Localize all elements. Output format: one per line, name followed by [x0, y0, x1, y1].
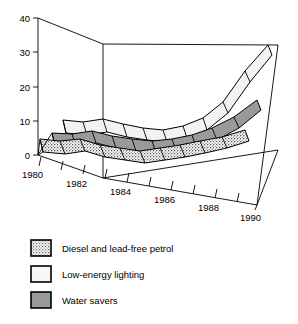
legend-label-low-energy-lighting: Low-energy lighting	[62, 269, 144, 280]
x-tick-label-1990: 1990	[240, 212, 261, 223]
y-tick-label-10: 10	[19, 116, 30, 127]
y-tick-label-40: 40	[19, 13, 30, 24]
x-tick-label-1986: 1986	[154, 194, 175, 205]
x-tick-1988	[215, 189, 217, 198]
x-tick-minor-1985	[149, 177, 151, 186]
y-tick-label-0: 0	[25, 150, 30, 161]
x-tick-label-1988: 1988	[198, 202, 219, 213]
legend-label-water-savers: Water savers	[62, 295, 118, 306]
x-tick-1990	[255, 205, 257, 210]
legend-swatch-low-energy-lighting	[31, 266, 51, 282]
y-tick-label-20: 20	[19, 82, 30, 93]
x-tick-1986	[171, 181, 173, 190]
x-tick-minor-1989	[237, 193, 239, 202]
x-tick-1980	[39, 157, 41, 166]
legend-swatch-water-savers	[31, 292, 51, 308]
chart-container: 40 30 20 10 0	[0, 0, 298, 324]
legend-item-low-energy-lighting[interactable]: Low-energy lighting	[31, 266, 144, 282]
legend-item-diesel[interactable]: Diesel and lead-free petrol	[31, 240, 173, 256]
ribbon-3d-chart: 40 30 20 10 0	[0, 0, 298, 324]
back-wall-outline	[38, 18, 103, 178]
legend-item-water-savers[interactable]: Water savers	[31, 292, 118, 308]
y-tick-label-30: 30	[19, 47, 30, 58]
x-tick-label-1984: 1984	[110, 186, 131, 197]
y-axis: 40 30 20 10 0	[19, 13, 38, 161]
x-tick-label-1982: 1982	[66, 178, 87, 189]
chart-legend: Diesel and lead-free petrol Low-energy l…	[31, 240, 173, 308]
legend-swatch-diesel	[31, 240, 51, 256]
x-tick-minor-1987	[193, 185, 195, 194]
x-tick-label-1980: 1980	[22, 169, 43, 180]
legend-label-diesel: Diesel and lead-free petrol	[62, 243, 173, 254]
frame-floor-right-edge	[257, 150, 278, 205]
